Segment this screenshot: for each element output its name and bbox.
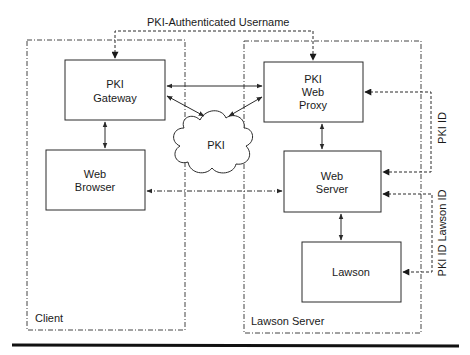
username-connector: [115, 31, 313, 60]
lawson-node: Lawson: [302, 242, 401, 302]
pki-web-proxy-line2: Web: [302, 86, 324, 98]
pki-gateway-line2: Gateway: [93, 92, 137, 104]
web-server-node: Web Server: [284, 151, 381, 212]
pki-cloud-label: PKI: [207, 139, 225, 151]
pki-gateway-node: PKI Gateway: [65, 60, 165, 120]
pki-web-proxy-line1: PKI: [304, 73, 322, 85]
web-server-line1: Web: [321, 170, 343, 182]
pki-id-lawson-id-label: PKI ID Lawson ID: [436, 190, 448, 277]
lawson-server-label: Lawson Server: [251, 315, 325, 327]
pki-authenticated-username-label: PKI-Authenticated Username: [147, 16, 289, 28]
web-server-line2: Server: [316, 183, 349, 195]
pki-id-label: PKI ID: [436, 112, 448, 144]
diagram-canvas: Client Lawson Server PKI-Authenticated U…: [0, 0, 470, 355]
web-browser-node: Web Browser: [46, 150, 145, 210]
proxy-cloud-arrow: [229, 97, 262, 116]
lawson-label: Lawson: [332, 266, 370, 278]
web-browser-line1: Web: [84, 168, 106, 180]
pki-gateway-line1: PKI: [106, 78, 124, 90]
client-label: Client: [35, 312, 63, 324]
pki-web-proxy-line3: Proxy: [299, 99, 328, 111]
pki-web-proxy-node: PKI Web Proxy: [264, 62, 363, 122]
web-browser-line2: Browser: [75, 181, 116, 193]
bottom-rule: [12, 345, 459, 346]
